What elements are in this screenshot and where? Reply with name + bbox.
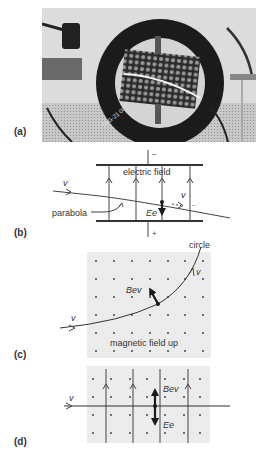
circle-label: circle [189, 240, 210, 250]
magnetic-field-label: magnetic field up [110, 338, 178, 348]
parabola-label: parabola [52, 208, 87, 218]
force-Ee-label: Ee [146, 208, 157, 218]
velocity-in-label: v [63, 178, 68, 188]
force-Ee-label-d: Ee [163, 420, 174, 430]
physics-diagrams: − + electric field v v - Ee parabola [0, 0, 263, 458]
velocity-in-label-c: v [71, 313, 76, 323]
parabola-pointer [91, 203, 122, 212]
minus-mark: - [192, 200, 195, 209]
bottom-sign: + [152, 229, 157, 238]
panel-d-crossed-fields: v Bev Ee [64, 366, 230, 443]
force-Bev-label-d: Bev [163, 384, 179, 394]
velocity-out-label-c: v [196, 267, 201, 277]
panel-c-magnetic-field: v v circle Bev magnetic field up [60, 240, 211, 358]
force-Bev-label: Bev [126, 285, 142, 295]
top-sign: − [152, 150, 157, 159]
velocity-out-dashes [172, 204, 181, 206]
panel-b-electric-field: − + electric field v v - Ee parabola [52, 150, 230, 238]
electric-field-label: electric field [123, 167, 171, 177]
crossed-field-region [87, 366, 210, 443]
velocity-in-label-d: v [69, 393, 74, 403]
velocity-out-label: v [181, 190, 186, 200]
